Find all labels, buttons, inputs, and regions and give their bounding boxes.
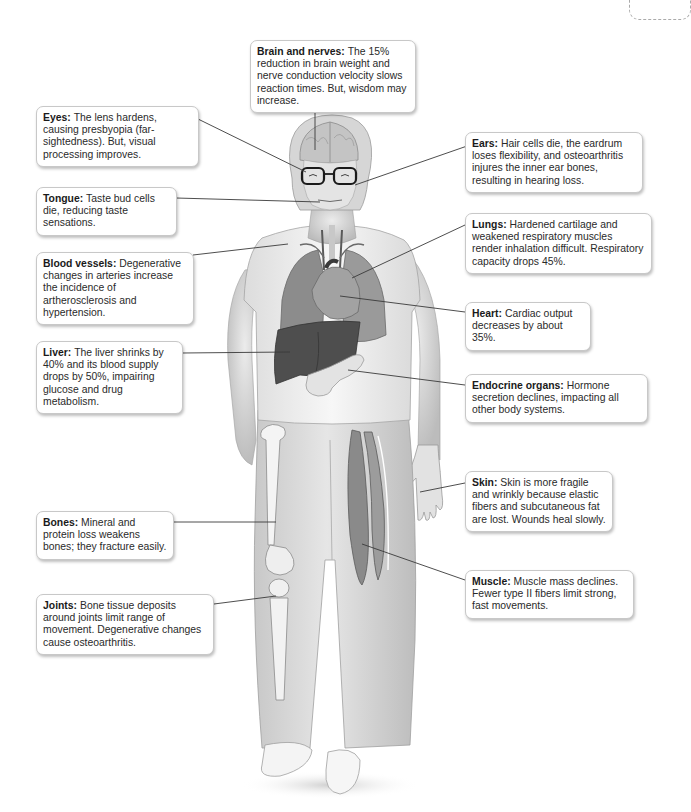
callout-title: Lungs: — [472, 219, 510, 230]
callout-title: Liver: — [43, 347, 74, 358]
callout-heart: Heart: Cardiac output decreases by about… — [465, 302, 591, 351]
callout-title: Endocrine organs: — [472, 380, 567, 391]
callout-title: Heart: — [472, 308, 505, 319]
callout-title: Tongue: — [43, 193, 86, 204]
callout-title: Muscle: — [472, 576, 514, 587]
callout-title: Brain and nerves: — [257, 46, 348, 57]
callout-liver: Liver: The liver shrinks by 40% and its … — [36, 341, 183, 414]
callout-ears: Ears: Hair cells die, the eardrum loses … — [465, 132, 643, 193]
callout-bones: Bones: Mineral and protein loss weakens … — [36, 511, 174, 560]
callout-title: Joints: — [43, 600, 80, 611]
callout-lungs: Lungs: Hardened cartilage and weakened r… — [465, 213, 652, 274]
callout-muscle: Muscle: Muscle mass declines. Fewer type… — [465, 570, 634, 619]
callout-endocrine-organs: Endocrine organs: Hormone secretion decl… — [465, 374, 648, 423]
callout-title: Skin: — [472, 477, 500, 488]
callout-title: Eyes: — [43, 112, 74, 123]
callout-joints: Joints: Bone tissue deposits around join… — [36, 594, 214, 655]
callout-title: Ears: — [472, 138, 501, 149]
callout-title: Bones: — [43, 517, 81, 528]
callout-blood-vessels: Blood vessels: Degenerative changes in a… — [36, 252, 194, 325]
callout-tongue: Tongue: Taste bud cells die, reducing ta… — [36, 187, 177, 236]
callout-skin: Skin: Skin is more fragile and wrinkly b… — [465, 471, 613, 532]
callout-eyes: Eyes: The lens hardens, causing presbyop… — [36, 106, 199, 167]
callout-brain-and-nerves: Brain and nerves: The 15% reduction in b… — [250, 40, 416, 113]
callout-title: Blood vessels: — [43, 258, 119, 269]
